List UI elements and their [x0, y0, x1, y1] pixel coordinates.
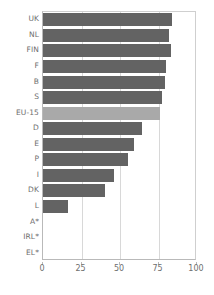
bar-s	[43, 91, 162, 104]
bar-dk	[43, 184, 105, 197]
bar-row	[43, 44, 197, 57]
bar-row	[43, 29, 197, 42]
bar-row	[43, 138, 197, 151]
bar-row	[43, 107, 197, 120]
y-axis-label-e: E	[1, 139, 39, 148]
bar-nl	[43, 29, 169, 42]
bar-row	[43, 60, 197, 73]
y-axis-label-s: S	[1, 92, 39, 101]
bar-b	[43, 76, 165, 89]
bar-row	[43, 200, 197, 213]
plot-area	[42, 11, 196, 260]
y-axis-label-b: B	[1, 77, 39, 86]
bar-uk	[43, 13, 172, 26]
bar-row	[43, 216, 197, 229]
bar-row	[43, 184, 197, 197]
x-tick-label-0: 0	[39, 264, 44, 274]
bar-row	[43, 153, 197, 166]
bar-row	[43, 231, 197, 244]
bar-l	[43, 200, 68, 213]
bar-d	[43, 122, 142, 135]
y-axis-label-irlstar: IRL*	[1, 232, 39, 241]
bar-i	[43, 169, 114, 182]
y-axis-label-astar: A*	[1, 217, 39, 226]
y-axis-label-nl: NL	[1, 30, 39, 39]
y-axis-category-labels: UKNLFINFBSEU-15DEPIDKLA*IRL*EL*	[0, 11, 39, 260]
bar-eu-15	[43, 107, 160, 120]
bar-f	[43, 60, 166, 73]
y-axis-label-uk: UK	[1, 14, 39, 23]
x-tick-label-50: 50	[114, 264, 124, 274]
y-axis-label-d: D	[1, 123, 39, 132]
bar-e	[43, 138, 134, 151]
y-axis-label-dk: DK	[1, 185, 39, 194]
bar-row	[43, 122, 197, 135]
bar-row	[43, 13, 197, 26]
x-tick-label-75: 75	[152, 264, 162, 274]
bar-row	[43, 169, 197, 182]
y-axis-label-i: I	[1, 170, 39, 179]
y-axis-label-fin: FIN	[1, 45, 39, 54]
bar-row	[43, 91, 197, 104]
y-axis-label-l: L	[1, 201, 39, 210]
x-tick-label-100: 100	[188, 264, 203, 274]
x-axis-tick-labels: 0255075100	[0, 262, 214, 282]
y-axis-label-p: P	[1, 154, 39, 163]
bar-chart: UKNLFINFBSEU-15DEPIDKLA*IRL*EL* 02550751…	[0, 0, 214, 295]
y-axis-label-eu-15: EU-15	[1, 108, 39, 117]
bar-row	[43, 76, 197, 89]
bar-fin	[43, 44, 171, 57]
y-axis-label-f: F	[1, 61, 39, 70]
bar-p	[43, 153, 128, 166]
y-axis-label-elstar: EL*	[1, 248, 39, 257]
x-tick-label-25: 25	[75, 264, 85, 274]
bar-row	[43, 247, 197, 260]
